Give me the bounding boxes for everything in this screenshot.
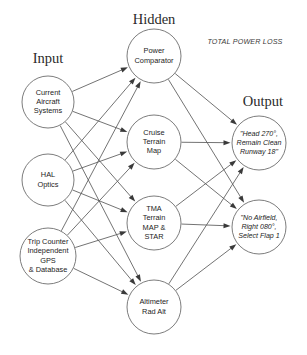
- edge-hal-optics-to-cruise-terrain-map: [73, 152, 127, 171]
- node-label-tma-terrain-map-star-line-3: STAR: [144, 232, 163, 241]
- node-label-current-aircraft-systems-line-2: Systems: [34, 106, 63, 115]
- node-label-head-270-remain-clean-line-1: Remain Clean: [237, 139, 282, 147]
- arrow-head-icon: [223, 140, 230, 145]
- node-hal-optics[interactable]: HALOptics: [22, 154, 74, 206]
- network-canvas: CurrentAircraftSystemsHALOpticsTrip Coun…: [0, 0, 307, 355]
- node-label-no-airfield-right-080-line-0: "No Airfield,: [241, 214, 278, 222]
- arrow-head-icon: [120, 152, 127, 157]
- node-label-cruise-terrain-map-line-2: Map: [147, 146, 161, 155]
- neural-network-diagram: CurrentAircraftSystemsHALOpticsTrip Coun…: [0, 0, 307, 355]
- node-cruise-terrain-map[interactable]: CruiseTerrainMap: [127, 115, 181, 169]
- node-label-tma-terrain-map-star-line-2: MAP &: [143, 223, 166, 232]
- node-altimeter-rad-alt[interactable]: AltimeterRad Alt: [127, 280, 181, 334]
- arrow-head-icon: [120, 67, 127, 72]
- node-label-trip-counter-gps-line-3: & Database: [29, 265, 68, 274]
- node-label-power-comparator-line-1: Comparator: [134, 56, 174, 65]
- arrow-head-icon: [121, 289, 128, 294]
- node-label-tma-terrain-map-star-line-0: TMA: [146, 204, 162, 213]
- arrow-head-icon: [238, 167, 244, 174]
- edge-trip-counter-gps-to-cruise-terrain-map: [67, 163, 134, 235]
- node-label-current-aircraft-systems-line-1: Aircraft: [36, 97, 59, 106]
- edges-group: [60, 67, 244, 294]
- edge-current-aircraft-systems-to-tma-terrain-map-star: [65, 122, 135, 202]
- node-label-no-airfield-right-080-line-1: Right 080°,: [241, 223, 276, 231]
- node-label-no-airfield-right-080-line-2: Select Flap 1: [238, 232, 279, 240]
- arrow-head-icon: [135, 81, 140, 88]
- arrow-head-icon: [120, 207, 127, 212]
- arrow-head-icon: [120, 127, 127, 132]
- node-label-trip-counter-gps-line-1: Independent: [27, 246, 68, 255]
- node-label-trip-counter-gps-line-0: Trip Counter: [28, 237, 69, 246]
- edge-trip-counter-gps-to-altimeter-rad-alt: [74, 268, 129, 294]
- heading-output: Output: [243, 93, 283, 109]
- edge-altimeter-rad-alt-to-no-airfield-right-080: [176, 244, 236, 290]
- node-tma-terrain-map-star[interactable]: TMATerrainMAP &STAR: [127, 196, 181, 250]
- annotation-total-power-loss: TOTAL POWER LOSS: [207, 37, 282, 46]
- node-power-comparator[interactable]: PowerComparator: [127, 29, 181, 83]
- arrow-head-icon: [229, 160, 236, 166]
- node-label-altimeter-rad-alt-line-1: Rad Alt: [142, 307, 166, 316]
- edge-current-aircraft-systems-to-power-comparator: [72, 67, 128, 91]
- nodes-group: CurrentAircraftSystemsHALOpticsTrip Coun…: [20, 29, 286, 334]
- node-label-current-aircraft-systems-line-0: Current: [36, 88, 61, 97]
- heading-hidden: Hidden: [133, 11, 176, 27]
- heading-input: Input: [33, 50, 64, 66]
- arrow-head-icon: [119, 231, 126, 236]
- node-label-hal-optics-line-1: Optics: [38, 180, 59, 189]
- node-current-aircraft-systems[interactable]: CurrentAircraftSystems: [22, 76, 74, 128]
- node-label-power-comparator-line-0: Power: [144, 46, 165, 55]
- annotations-group: TOTAL POWER LOSS: [207, 37, 282, 46]
- node-label-head-270-remain-clean-line-2: Runway 18": [240, 148, 278, 156]
- node-no-airfield-right-080[interactable]: "No Airfield,Right 080°,Select Flap 1: [232, 200, 286, 254]
- arrow-head-icon: [223, 223, 230, 228]
- edge-hal-optics-to-altimeter-rad-alt: [65, 200, 136, 285]
- arrow-head-icon: [135, 274, 140, 281]
- edge-power-comparator-to-head-270-remain-clean: [175, 74, 237, 125]
- arrow-head-icon: [229, 244, 236, 250]
- node-label-cruise-terrain-map-line-0: Cruise: [143, 128, 164, 137]
- node-label-head-270-remain-clean-line-0: "Head 270°,: [240, 130, 278, 138]
- node-label-altimeter-rad-alt-line-0: Altimeter: [139, 297, 169, 306]
- node-label-hal-optics-line-0: HAL: [41, 170, 55, 179]
- node-label-trip-counter-gps-line-2: GPS: [40, 256, 56, 265]
- node-label-cruise-terrain-map-line-1: Terrain: [143, 137, 166, 146]
- node-trip-counter-gps[interactable]: Trip CounterIndependentGPS& Database: [20, 228, 76, 284]
- node-head-270-remain-clean[interactable]: "Head 270°,Remain CleanRunway 18": [232, 116, 286, 170]
- arrow-head-icon: [238, 195, 244, 202]
- node-label-tma-terrain-map-star-line-1: Terrain: [143, 213, 166, 222]
- arrow-head-icon: [230, 203, 237, 209]
